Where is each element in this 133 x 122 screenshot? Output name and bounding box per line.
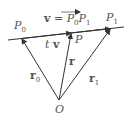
equation-v: v = P0P1 [44,13,90,27]
label-r: r [69,56,75,67]
label-r0: r0 [30,70,40,84]
label-r1: r1 [89,73,99,87]
label-p0: P0 [14,20,26,34]
label-p1: P1 [106,12,118,26]
label-tv: t v [45,39,59,50]
vector-r1-arrow [59,30,110,101]
label-origin: O [55,104,64,115]
label-p: P [75,34,82,45]
